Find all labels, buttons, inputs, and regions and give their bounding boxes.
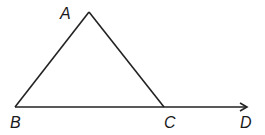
label-d: D xyxy=(240,115,252,131)
segment-ac xyxy=(89,12,164,107)
label-c: C xyxy=(164,115,176,131)
segment-ab xyxy=(15,12,89,107)
label-b: B xyxy=(10,115,21,131)
label-a: A xyxy=(60,6,71,22)
triangle-diagram xyxy=(0,0,265,135)
